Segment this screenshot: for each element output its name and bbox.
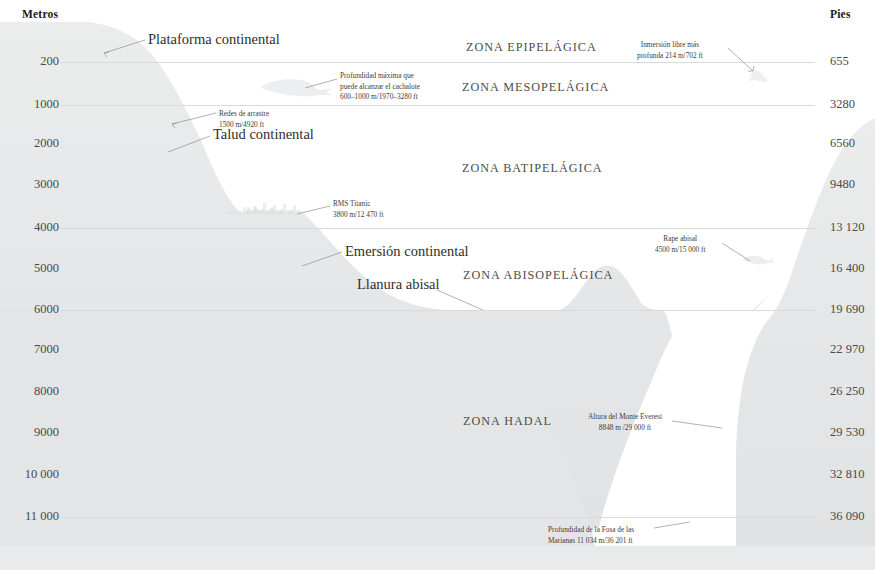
- free-diver-silhouette: [748, 71, 768, 82]
- gridline-200m: [60, 62, 815, 63]
- annotation-inmersion-libre: Inmersión libre más profunda 214 m/702 f…: [637, 40, 703, 61]
- tick-meters-11000: 11 000: [25, 510, 59, 523]
- zone-label-mesopelagica: ZONA MESOPELÁGICA: [462, 80, 609, 95]
- annotation-redes-arrastre-line1: Redes de arrastre: [219, 109, 269, 120]
- annotation-inmersion-libre-line2: profunda 214 m/702 ft: [637, 51, 703, 62]
- gridline-1000m: [60, 105, 815, 106]
- feature-label-llanura-abisal: Llanura abisal: [357, 277, 440, 293]
- axis-header-meters: Metros: [22, 8, 58, 20]
- annotation-rms-titanic-line1: RMS Titanic: [333, 199, 383, 210]
- tick-meters-3000: 3000: [34, 178, 59, 191]
- tick-feet-19690: 19 690: [830, 303, 864, 316]
- tick-meters-6000: 6000: [34, 303, 59, 316]
- annotation-rape-abisal-line2: 4500 m/15 000 ft: [655, 245, 705, 256]
- tick-meters-200: 200: [40, 55, 59, 68]
- tick-feet-32810: 32 810: [830, 468, 864, 481]
- tick-feet-22970: 22 970: [830, 343, 864, 356]
- annotation-monte-everest-line1: Altura del Monte Everest: [588, 412, 662, 423]
- tick-meters-4000: 4000: [34, 221, 59, 234]
- annotation-rms-titanic-line2: 3800 m/12 470 ft: [333, 210, 383, 221]
- tick-feet-6560: 6560: [830, 137, 855, 150]
- gridline-6000m: [60, 310, 815, 311]
- zone-label-abisopelagica: ZONA ABISOPELÁGICA: [463, 268, 613, 283]
- rms-titanic-silhouette: [224, 203, 300, 214]
- annotation-redes-arrastre-line2: 1500 m/4920 ft: [219, 120, 269, 131]
- gridline-4000m: [60, 228, 815, 229]
- annotation-cachalote-line1: Profundidad máxima que: [340, 71, 420, 82]
- tick-feet-36090: 36 090: [830, 510, 864, 523]
- annotation-monte-everest: Altura del Monte Everest 8848 m /29 000 …: [588, 412, 662, 433]
- zone-label-batipelagica: ZONA BATIPELÁGICA: [462, 161, 603, 176]
- zone-label-epipelagica: ZONA EPIPELÁGICA: [466, 40, 597, 55]
- ocean-depth-infographic: Metros Pies 200 1000 2000 3000 4000 5000…: [0, 0, 875, 570]
- tick-meters-9000: 9000: [34, 426, 59, 439]
- tick-feet-3280: 3280: [830, 98, 855, 111]
- annotation-fosa-marianas: Profundidad de la Fosa de las Marianas 1…: [548, 525, 634, 546]
- tick-meters-10000: 10 000: [25, 468, 59, 481]
- annotation-rape-abisal: Rape abisal 4500 m/15 000 ft: [655, 234, 705, 255]
- annotation-monte-everest-line2: 8848 m /29 000 ft: [588, 423, 662, 434]
- tick-feet-26250: 26 250: [830, 385, 864, 398]
- annotation-fosa-marianas-line1: Profundidad de la Fosa de las: [548, 525, 634, 536]
- tick-feet-655: 655: [830, 55, 849, 68]
- tick-feet-16400: 16 400: [830, 262, 864, 275]
- axis-header-feet: Pies: [830, 8, 851, 20]
- feature-label-emersion-continental: Emersión continental: [345, 244, 469, 260]
- feature-label-plataforma-continental: Plataforma continental: [148, 32, 280, 48]
- tick-meters-7000: 7000: [34, 343, 59, 356]
- tick-meters-1000: 1000: [34, 98, 59, 111]
- annotation-inmersion-libre-line1: Inmersión libre más: [637, 40, 703, 51]
- annotation-redes-arrastre: Redes de arrastre 1500 m/4920 ft: [219, 109, 269, 130]
- annotation-rms-titanic: RMS Titanic 3800 m/12 470 ft: [333, 199, 383, 220]
- annotation-cachalote-line3: 600–1000 m/1970–3280 ft: [340, 92, 420, 103]
- annotation-fosa-marianas-line2: Marianas 11 034 m/36 201 ft: [548, 536, 634, 547]
- annotation-cachalote-line2: puede alcanzar el cachalote: [340, 82, 420, 93]
- gridline-11000m: [60, 517, 815, 518]
- tick-meters-2000: 2000: [34, 137, 59, 150]
- tick-feet-9480: 9480: [830, 178, 855, 191]
- tick-meters-8000: 8000: [34, 385, 59, 398]
- cachalote-silhouette: [262, 79, 334, 96]
- rape-abisal-silhouette: [743, 256, 775, 265]
- tick-feet-29530: 29 530: [830, 426, 864, 439]
- annotation-cachalote: Profundidad máxima que puede alcanzar el…: [340, 71, 420, 103]
- annotation-rape-abisal-line1: Rape abisal: [655, 234, 705, 245]
- tick-feet-13120: 13 120: [830, 221, 864, 234]
- tick-meters-5000: 5000: [34, 262, 59, 275]
- zone-label-hadal: ZONA HADAL: [463, 414, 552, 429]
